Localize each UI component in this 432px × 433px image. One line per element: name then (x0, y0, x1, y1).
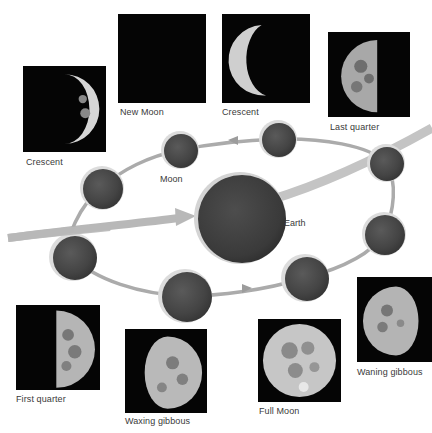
photo-last-quarter (328, 32, 410, 117)
moon-sphere-waning-gibbous (362, 212, 406, 256)
earth-sphere (194, 172, 286, 264)
moon-sphere-crescent-top (259, 120, 297, 158)
phase-label: New Moon (120, 107, 164, 117)
photo-crescent-left (23, 66, 106, 152)
phase-label: Waxing gibbous (125, 416, 190, 426)
moon-sphere-last-quarter (367, 144, 405, 182)
moon-label: Moon (160, 174, 183, 184)
moon-sphere-crescent-left (80, 166, 124, 210)
photo-waxing-gibbous (125, 329, 207, 413)
photo-crescent-top (222, 14, 310, 103)
photo-full-moon (258, 319, 341, 402)
moon-sphere-waxing-gibbous (158, 269, 212, 323)
moon-sphere-new (161, 131, 199, 169)
phase-label: Full Moon (259, 406, 299, 416)
phase-label: First quarter (16, 394, 66, 404)
phase-label: Waning gibbous (357, 367, 423, 377)
earth-label: Earth (284, 218, 306, 228)
phase-label: Last quarter (330, 122, 379, 132)
phase-label: Crescent (222, 107, 259, 117)
phase-label: Crescent (26, 157, 63, 167)
photo-new-moon (118, 14, 206, 103)
photo-first-quarter (16, 305, 100, 390)
photo-waning-gibbous (357, 277, 432, 362)
moon-sphere-first-quarter (49, 233, 97, 281)
moon-phases-diagram: Moon Earth Crescent New Moon Crescent La… (0, 0, 432, 433)
arrow-head-icon (175, 208, 196, 226)
moon-sphere-full (281, 254, 329, 302)
